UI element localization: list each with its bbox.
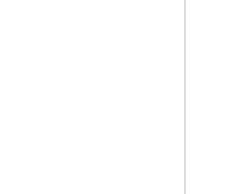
- diagram-canvas: [0, 0, 251, 194]
